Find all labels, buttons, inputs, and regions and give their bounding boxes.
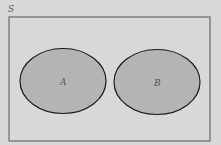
set-b-label: B [153, 78, 161, 88]
set-a-label: A [59, 77, 67, 87]
venn-diagram: S A B [0, 0, 221, 145]
universe-label: S [8, 4, 14, 14]
